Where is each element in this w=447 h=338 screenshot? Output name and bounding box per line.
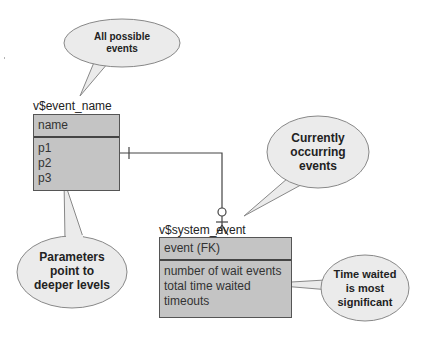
entity-system-event[interactable]: event (FK) number of wait events total t… xyxy=(159,237,292,318)
entity-field: total time waited xyxy=(164,279,287,294)
entity-field: timeouts xyxy=(164,294,287,309)
entity-field: number of wait events xyxy=(164,264,287,279)
entity-header: event (FK) xyxy=(160,238,291,261)
callout-line: Currently xyxy=(273,131,363,145)
entity-event-name[interactable]: name p1 p2 p3 xyxy=(33,114,120,191)
callout-time-waited-text: Time waited is most significant xyxy=(325,267,405,309)
callout-line: All possible xyxy=(72,31,172,43)
entity-header: name xyxy=(34,115,119,138)
callout-currently-occurring-text: Currently occurring events xyxy=(273,131,363,173)
callout-line: significant xyxy=(325,295,405,309)
entity-fields: p1 p2 p3 xyxy=(34,138,119,189)
entity-field: p1 xyxy=(38,141,115,156)
entity-field: p3 xyxy=(38,171,115,186)
callout-line: occurring xyxy=(273,145,363,159)
callout-parameters-text: Parameters point to deeper levels xyxy=(22,250,122,292)
callout-line: events xyxy=(72,43,172,55)
callout-line: events xyxy=(273,159,363,173)
entity-field: p2 xyxy=(38,156,115,171)
relationship-line xyxy=(119,147,228,235)
callout-line: Parameters xyxy=(22,250,122,264)
entity-title-system-event: v$system_event xyxy=(159,223,246,237)
callout-line: Time waited xyxy=(325,267,405,281)
entity-fields: number of wait events total time waited … xyxy=(160,261,291,312)
callout-line: point to xyxy=(22,264,122,278)
callout-line: is most xyxy=(325,281,405,295)
callout-all-possible-text: All possible events xyxy=(72,31,172,55)
callout-line: deeper levels xyxy=(22,278,122,292)
entity-title-event-name: v$event_name xyxy=(33,99,112,113)
